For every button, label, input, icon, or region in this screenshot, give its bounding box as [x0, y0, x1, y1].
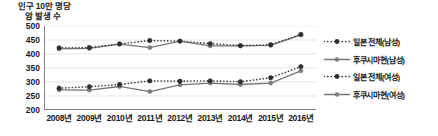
y-tick-label: 500 [14, 22, 40, 31]
y-tick-label: 300 [14, 78, 40, 87]
y-tick-label: 450 [14, 36, 40, 45]
series-data-point [117, 82, 121, 86]
legend-item-label: 일본 전체(여성) [353, 71, 400, 82]
series-data-point [148, 90, 152, 94]
chart-legend: 일본 전체(남성)후쿠시마현(남성)일본 전체(여성)후쿠시마현(여성) [324, 33, 438, 107]
legend-item-label: 후쿠시마현(여성) [353, 89, 405, 100]
series-data-point [57, 46, 61, 50]
series-data-point [178, 39, 182, 43]
series-data-point [87, 85, 91, 89]
series-data-point [238, 80, 242, 84]
legend-item-label: 후쿠시마현(남성) [353, 54, 405, 65]
x-tick-label: 2016년 [281, 114, 321, 123]
y-axis-caption: 인구 10만 명당 암 발생 수 [18, 1, 138, 21]
plot-area [44, 26, 316, 110]
legend-item[interactable]: 일본 전체(여성) [324, 68, 400, 85]
series-data-point [269, 81, 273, 85]
legend-line-swatch [324, 36, 350, 47]
series-data-point [299, 32, 303, 36]
legend-item[interactable]: 후쿠시마현(여성) [324, 86, 405, 103]
series-data-point [148, 46, 152, 50]
legend-item-label: 일본 전체(남성) [353, 36, 400, 47]
legend-item[interactable]: 후쿠시마현(남성) [324, 51, 405, 68]
plot-svg [44, 26, 316, 110]
series-data-point [87, 45, 91, 49]
legend-item[interactable]: 일본 전체(남성) [324, 33, 400, 50]
y-tick-label: 200 [14, 106, 40, 115]
y-tick-label: 250 [14, 92, 40, 101]
series-data-point [208, 41, 212, 45]
y-tick-label: 400 [14, 50, 40, 59]
series-data-point [268, 76, 272, 80]
legend-line-swatch [324, 89, 350, 100]
series-data-point [268, 43, 272, 47]
cancer-incidence-line-chart: 인구 10만 명당 암 발생 수 500450400350300250200 2… [0, 0, 438, 136]
series-data-point [57, 86, 61, 90]
series-data-point [178, 79, 182, 83]
series-data-point [299, 69, 303, 73]
series-data-point [208, 79, 212, 83]
y-axis-caption-line-2: 암 발생 수 [18, 11, 138, 21]
series-data-point [148, 79, 152, 83]
series-data-point [117, 42, 121, 46]
series-data-point [299, 64, 303, 68]
series-data-point [148, 38, 152, 42]
y-axis-caption-line-1: 인구 10만 명당 [18, 1, 138, 11]
legend-line-swatch [324, 71, 350, 82]
series-data-point [238, 43, 242, 47]
legend-line-swatch [324, 54, 350, 65]
y-tick-label: 350 [14, 64, 40, 73]
